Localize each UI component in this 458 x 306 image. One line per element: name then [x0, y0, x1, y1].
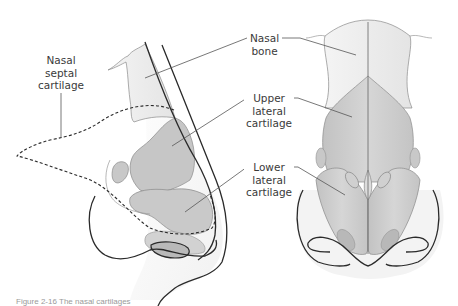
label-line: bone: [250, 45, 279, 58]
frontal-bone-wing-right: [410, 35, 432, 38]
label-upper-lateral-cartilage: Upper lateral cartilage: [244, 92, 294, 130]
frontal-view: [296, 20, 443, 279]
lateral-upper-lateral-cartilage: [130, 118, 194, 192]
label-line: cartilage: [246, 117, 292, 130]
nasal-anatomy-diagram: [0, 0, 458, 306]
label-line: septal: [38, 67, 84, 80]
label-line: Upper: [246, 92, 292, 105]
label-nasal-septal-cartilage: Nasal septal cartilage: [36, 54, 86, 92]
leader-upper-lateral-left: [172, 98, 247, 146]
label-lower-lateral-cartilage: Lower lateral cartilage: [244, 161, 294, 199]
frontal-bone-wing-left: [306, 35, 325, 38]
label-line: lateral: [246, 105, 292, 118]
figure-caption: Figure 2-16 The nasal cartilages: [16, 297, 131, 306]
label-line: Nasal: [250, 32, 279, 45]
lateral-sesamoid-cartilage: [112, 162, 128, 183]
label-nasal-bone: Nasal bone: [248, 32, 281, 57]
lateral-lower-lateral-cartilage: [130, 189, 213, 235]
label-line: cartilage: [38, 79, 84, 92]
lateral-nasal-bone: [108, 44, 175, 122]
label-line: Nasal: [38, 54, 84, 67]
label-line: Lower: [246, 161, 292, 174]
label-line: lateral: [246, 174, 292, 187]
label-line: cartilage: [246, 186, 292, 199]
leader-nasal-bone-left: [145, 38, 247, 78]
frontal-sesamoid-left: [316, 148, 326, 168]
frontal-sesamoid-right: [410, 148, 420, 168]
